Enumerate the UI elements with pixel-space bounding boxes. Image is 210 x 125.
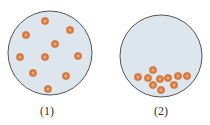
particle <box>16 53 23 60</box>
particle <box>41 17 48 24</box>
particle <box>149 66 156 73</box>
particle <box>149 81 156 88</box>
particle <box>157 86 164 93</box>
particle <box>183 72 190 79</box>
particle <box>44 85 51 92</box>
particle <box>62 72 69 79</box>
particle <box>51 40 58 47</box>
particle <box>41 53 48 60</box>
figure-1 <box>8 11 92 95</box>
particle <box>134 73 141 80</box>
container-circle <box>120 15 202 97</box>
particle <box>29 69 36 76</box>
particle <box>174 72 181 79</box>
particle <box>74 52 81 59</box>
particle <box>164 74 171 81</box>
figure-2-label: (2) <box>146 104 176 119</box>
particle <box>144 74 151 81</box>
figure-1-label: (1) <box>32 104 62 119</box>
particle <box>156 75 163 82</box>
particle <box>170 81 177 88</box>
particle <box>66 26 73 33</box>
figure-2 <box>120 15 202 97</box>
particle <box>22 31 29 38</box>
